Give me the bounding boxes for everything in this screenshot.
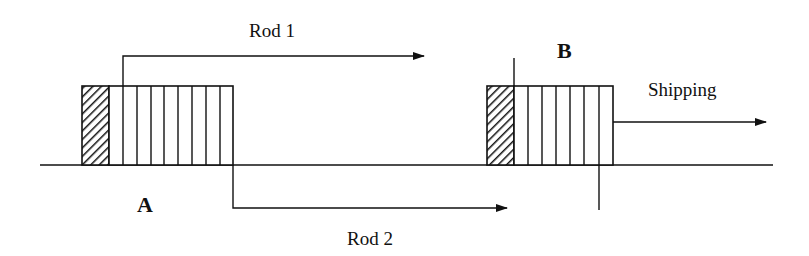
rod2-arrow bbox=[233, 165, 507, 208]
shipping-label: Shipping bbox=[648, 79, 717, 100]
rod2-label: Rod 2 bbox=[347, 228, 393, 249]
rod1-arrow bbox=[123, 56, 424, 86]
box-b bbox=[487, 86, 613, 165]
process-flow-diagram: Rod 1 Rod 2 A B Shipping bbox=[0, 0, 809, 256]
box-a bbox=[82, 86, 233, 165]
box-a-outline bbox=[109, 86, 233, 165]
rod1-label: Rod 1 bbox=[249, 20, 295, 41]
box-b-hatched-cell bbox=[487, 86, 514, 165]
box-a-hatched-cell bbox=[82, 86, 109, 165]
box-b-outline bbox=[514, 86, 613, 165]
point-a-label: A bbox=[137, 192, 153, 217]
point-b-label: B bbox=[557, 38, 572, 63]
